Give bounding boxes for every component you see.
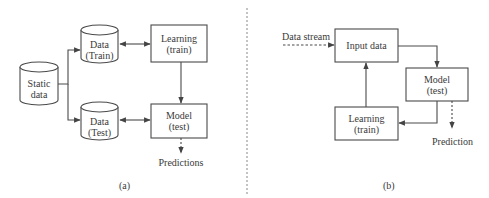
learning-line2: (train) <box>151 44 207 55</box>
static-data-line1: Static <box>20 78 58 89</box>
static-data-line2: data <box>20 89 58 100</box>
edge-input-model <box>398 46 437 67</box>
edge-static-to-train <box>58 50 80 84</box>
data-test-line2: (Test) <box>81 127 118 138</box>
model-label-b: Model (test) <box>406 74 468 96</box>
predictions-label: Predictions <box>151 157 211 168</box>
prediction-label: Prediction <box>432 136 473 147</box>
data-train-line2: (Train) <box>81 50 118 61</box>
caption-b: (b) <box>383 180 395 191</box>
model-b-line1: Model <box>406 74 468 85</box>
learning-label-b: Learning (train) <box>335 113 398 135</box>
learning-label: Learning (train) <box>151 33 207 55</box>
model-line2: (test) <box>151 121 207 132</box>
data-train-label: Data (Train) <box>81 39 118 61</box>
model-line1: Model <box>151 110 207 121</box>
data-stream-label: Data stream <box>282 31 330 42</box>
learning-line1: Learning <box>151 33 207 44</box>
learning-b-line1: Learning <box>335 113 398 124</box>
static-data-label: Static data <box>20 78 58 100</box>
edge-model-learning <box>399 101 437 123</box>
data-train-line1: Data <box>81 39 118 50</box>
input-data-label: Input data <box>335 40 398 51</box>
model-label: Model (test) <box>151 110 207 132</box>
model-b-line2: (test) <box>406 85 468 96</box>
data-test-line1: Data <box>81 116 118 127</box>
caption-a: (a) <box>119 180 130 191</box>
edge-static-to-test <box>68 84 80 120</box>
learning-b-line2: (train) <box>335 124 398 135</box>
data-test-label: Data (Test) <box>81 116 118 138</box>
diagram-canvas <box>0 0 489 198</box>
